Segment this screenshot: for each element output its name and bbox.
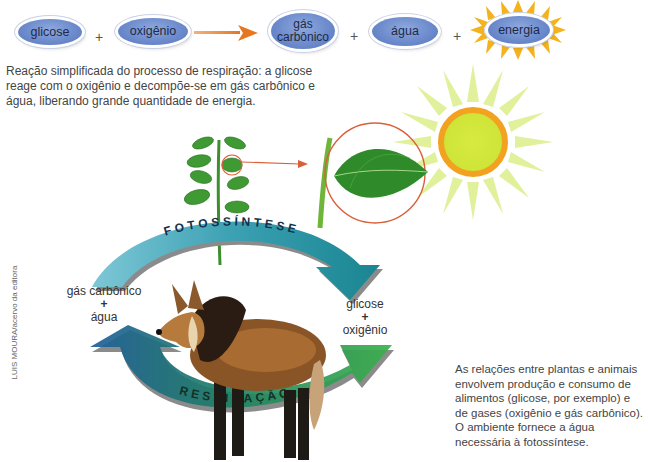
product-gas-carbonico: gás carbônico xyxy=(271,13,335,49)
cycle-left-label: gás carbônico + água xyxy=(54,285,154,324)
product-agua: água xyxy=(372,17,438,46)
cycle-right-label: glicose + oxigênio xyxy=(330,298,400,337)
plus-sign: + xyxy=(350,28,358,44)
reactant-oxigenio: oxigênio xyxy=(118,18,188,45)
plus-sign: + xyxy=(453,28,461,44)
reaction-arrow-icon xyxy=(194,23,260,43)
side-caption: As relações entre plantas e animais envo… xyxy=(455,362,645,449)
plus-sign: + xyxy=(95,29,103,45)
maned-wolf-icon xyxy=(148,280,333,462)
product-energia: energia xyxy=(488,16,550,44)
image-credit: LUIS MOURA/acervo da editora xyxy=(10,263,19,383)
equation-caption: Reação simplificada do processo de respi… xyxy=(6,64,336,109)
reactant-glicose: glicose xyxy=(18,19,82,45)
